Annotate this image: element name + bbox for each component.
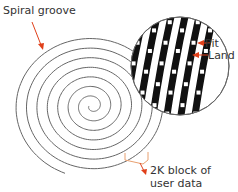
data-block-label-line1: 2K block of [150,164,211,177]
data-block-bracket-icon [125,152,148,175]
data-block-label-line2: user data [150,177,202,190]
optical-disc-diagram: Spiral groove Pit Land 2K block of user … [0,0,238,192]
spiral-groove-arrow-icon [32,22,44,50]
land-label: Land [208,49,235,62]
spiral-groove-label: Spiral groove [3,4,76,17]
